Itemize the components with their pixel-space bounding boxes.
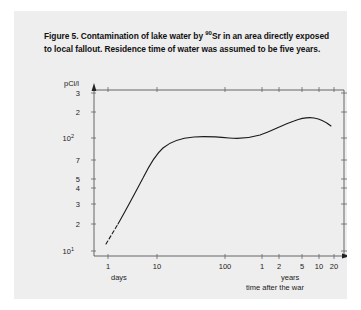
y-axis-arrow <box>92 83 97 91</box>
data-curve <box>118 118 331 224</box>
chart-figure: pCi/l 3 2 102 7 5 4 3 2 101 1 10 100 1 2… <box>14 11 347 299</box>
top-axis-ticks <box>108 87 334 92</box>
x-axis-ticks <box>108 254 334 259</box>
data-curve-dashed-start <box>106 224 118 244</box>
plot-svg <box>14 11 347 299</box>
x-axis-arrow <box>342 254 347 259</box>
plot-frame <box>94 90 344 256</box>
y-axis-ticks <box>91 93 96 251</box>
figure-page: Figure 5. Contamination of lake water by… <box>14 11 347 299</box>
